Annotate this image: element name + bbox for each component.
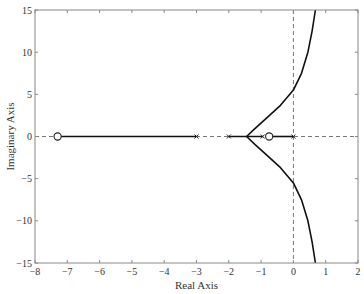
- x-tick-label: −4: [159, 266, 170, 277]
- root-locus-chart: −8−7−6−5−4−3−2−1012−15−10−5051015 Real A…: [0, 0, 364, 294]
- x-tick-label: −6: [94, 266, 105, 277]
- y-tick-label: −15: [16, 258, 32, 269]
- x-tick-label: −1: [256, 266, 267, 277]
- x-axis-label: Real Axis: [175, 279, 218, 291]
- y-tick-label: 15: [22, 5, 32, 16]
- zero-marker: [266, 133, 273, 140]
- y-axis-label: Imaginary Axis: [4, 102, 16, 170]
- chart-canvas: −8−7−6−5−4−3−2−1012−15−10−5051015 Real A…: [0, 0, 364, 294]
- zero-marker: [54, 133, 61, 140]
- x-tick-label: −7: [62, 266, 73, 277]
- y-tick-label: 0: [27, 131, 32, 142]
- y-tick-label: −5: [21, 173, 32, 184]
- locus-branches: [58, 10, 316, 263]
- x-tick-label: 0: [291, 266, 296, 277]
- y-tick-label: −10: [16, 215, 32, 226]
- x-tick-label: −5: [127, 266, 138, 277]
- y-tick-label: 5: [27, 89, 32, 100]
- x-tick-label: 1: [323, 266, 328, 277]
- upper-branch: [247, 10, 316, 137]
- lower-branch: [247, 137, 316, 264]
- x-tick-label: −2: [223, 266, 234, 277]
- x-tick-label: −3: [191, 266, 202, 277]
- x-tick-label: 2: [356, 266, 361, 277]
- y-tick-label: 10: [22, 47, 32, 58]
